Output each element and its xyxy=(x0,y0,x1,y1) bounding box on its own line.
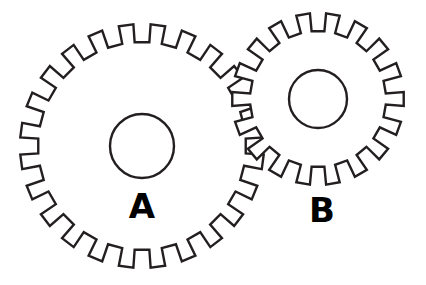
gear-a-hub-circle xyxy=(110,114,174,178)
gear-b-label: B xyxy=(309,190,335,230)
gear-diagram-figure: A B xyxy=(0,0,426,285)
gear-a-label: A xyxy=(129,186,156,226)
gear-b-hub-circle xyxy=(289,70,347,128)
gear-diagram-canvas: A B xyxy=(0,0,426,285)
